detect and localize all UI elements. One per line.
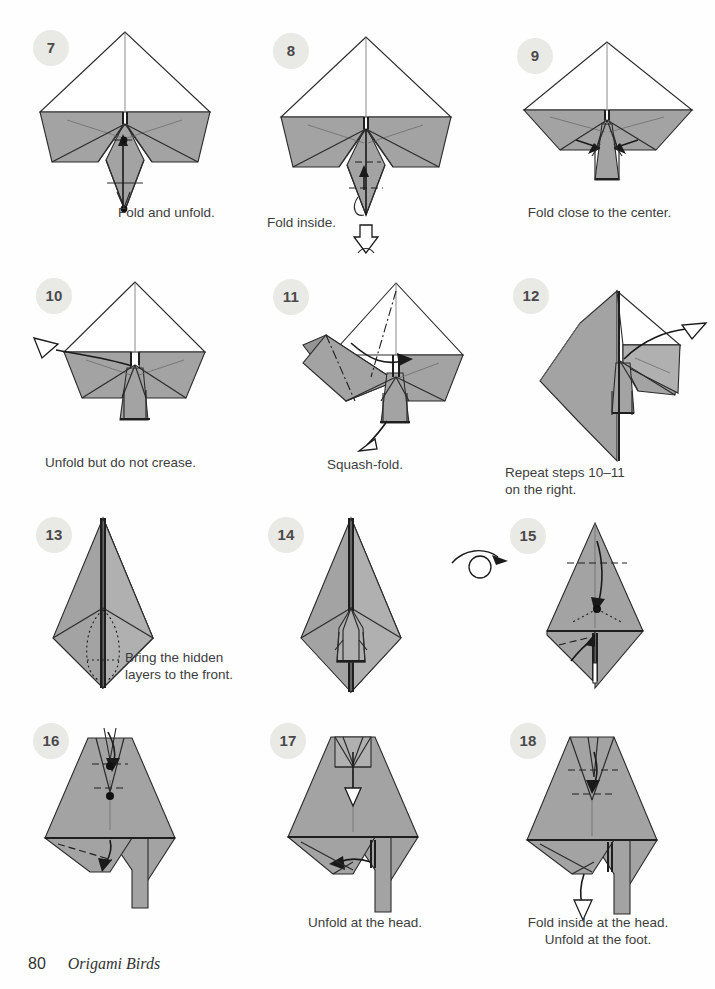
step-17-caption: Unfold at the head. — [260, 915, 470, 932]
step-16-diagram — [40, 720, 230, 920]
step-8: 8 — [245, 0, 485, 265]
step-14-diagram — [283, 510, 453, 700]
step-9-caption: Fold close to the center. — [492, 205, 707, 222]
step-11-caption: Squash-fold. — [265, 457, 465, 474]
step-11: 11 — [245, 265, 485, 505]
step-18: 18 — [480, 710, 715, 955]
step-16: 16 — [0, 710, 240, 935]
page-number: 80 — [28, 955, 46, 973]
step-8-caption: Fold inside. — [267, 215, 387, 232]
page-footer: 80 Origami Birds — [28, 955, 160, 973]
step-7: 7 — [0, 0, 240, 265]
step-17-diagram — [283, 722, 473, 922]
steps-grid: 7 — [0, 0, 715, 935]
step-9: 9 — [480, 0, 715, 265]
step-10-caption: Unfold but do not crease. — [8, 455, 233, 472]
step-9-diagram — [502, 32, 712, 207]
step-12-caption: Repeat steps 10–11 on the right. — [505, 465, 705, 498]
step-7-caption: Fold and unfold. — [118, 205, 248, 222]
step-13-caption: Bring the hidden layers to the front. — [125, 650, 240, 683]
step-7-diagram — [22, 20, 232, 220]
step-11-diagram — [263, 273, 483, 463]
step-18-diagram — [512, 722, 712, 922]
step-18-caption: Fold inside at the head. Unfold at the f… — [488, 915, 708, 948]
page-canvas: 7 — [0, 0, 715, 989]
step-10-diagram — [12, 270, 232, 460]
step-12: 12 — [480, 265, 715, 505]
step-14: 14 — [245, 505, 485, 710]
step-15: 15 — [480, 505, 715, 710]
book-title: Origami Birds — [68, 955, 160, 973]
step-10: 10 Unfold — [0, 265, 240, 505]
step-15-diagram — [535, 513, 705, 708]
step-12-diagram — [520, 273, 710, 468]
step-17: 17 — [245, 710, 485, 955]
step-13: 13 Bring the hidden layers to the front. — [0, 505, 240, 710]
